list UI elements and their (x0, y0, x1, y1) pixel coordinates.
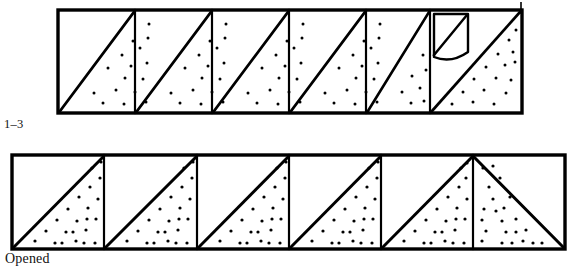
top-strip-dividers (135, 10, 430, 113)
folded-strip-illustration (0, 0, 571, 272)
bottom-strip-dividers (104, 155, 473, 249)
top-strip-group (58, 2, 522, 113)
caption-step-1-3: 1–3 (4, 118, 23, 131)
bottom-strip-group (12, 155, 565, 249)
figure-root: 1–3 Opened (0, 0, 571, 272)
caption-opened: Opened (5, 252, 50, 266)
